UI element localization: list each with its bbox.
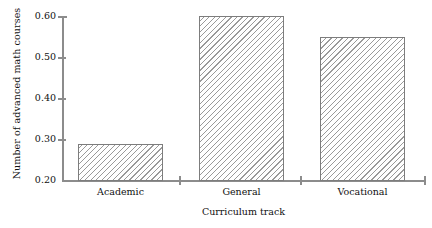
bar-academic (78, 144, 163, 181)
y-tick-mark-040 (58, 98, 66, 100)
x-category-label-vocational: Vocational (320, 186, 405, 198)
y-tick-label-030: 0.30 (26, 134, 56, 144)
x-tick-mark-2 (300, 176, 302, 185)
y-tick-label-040: 0.40 (26, 93, 56, 103)
y-tick-label-060: 0.60 (26, 11, 56, 21)
bar-chart-figure: Number of advanced math courses 0.60 0.5… (0, 0, 432, 228)
y-tick-label-050: 0.50 (26, 52, 56, 62)
x-category-label-academic: Academic (78, 186, 163, 198)
y-tick-label-020: 0.20 (26, 175, 56, 185)
bar-general (199, 16, 284, 181)
y-tick-mark-060 (58, 16, 67, 18)
x-tick-mark-3 (424, 176, 426, 185)
y-tick-mark-030 (58, 139, 66, 141)
x-category-label-general: General (199, 186, 284, 198)
bar-vocational (320, 37, 405, 181)
y-axis-tick-labels: 0.60 0.50 0.40 0.30 0.20 (26, 0, 56, 228)
x-axis-title: Curriculum track (62, 206, 425, 217)
y-axis-title: Number of advanced math courses (11, 4, 22, 184)
x-tick-mark-1 (179, 176, 181, 185)
y-tick-mark-050 (58, 57, 66, 59)
